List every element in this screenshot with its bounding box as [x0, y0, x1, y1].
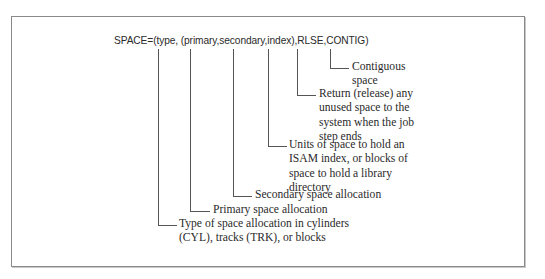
connector-rlse-vertical: [297, 49, 298, 96]
annotation-line: Contiguous: [352, 60, 405, 74]
connector-contig-horizontal: [330, 68, 349, 69]
annotation-secondary: Secondary space allocation: [255, 188, 381, 202]
annotation-line: Units of space to hold an: [289, 138, 408, 152]
annotation-line: unused space to the: [319, 101, 414, 115]
connector-secondary-vertical: [233, 49, 234, 197]
annotation-type: Type of space allocation in cylinders (C…: [179, 217, 349, 246]
annotation-index: Units of space to hold an ISAM index, or…: [289, 138, 408, 195]
annotation-line: Primary space allocation: [213, 203, 328, 217]
annotation-primary: Primary space allocation: [213, 203, 328, 217]
connector-index-vertical: [268, 49, 269, 147]
connector-contig-vertical: [330, 49, 331, 69]
annotation-line: Type of space allocation in cylinders: [179, 217, 349, 231]
connector-index-horizontal: [268, 146, 287, 147]
annotation-line: system when the job: [319, 116, 414, 130]
annotation-line: (CYL), tracks (TRK), or blocks: [179, 231, 349, 245]
connector-type-vertical: [158, 49, 159, 226]
connector-secondary-horizontal: [233, 196, 252, 197]
annotation-line: Return (release) any: [319, 87, 414, 101]
connector-primary-vertical: [190, 49, 191, 212]
annotation-line: ISAM index, or blocks of: [289, 152, 408, 166]
connector-primary-horizontal: [190, 211, 210, 212]
space-syntax: SPACE=(type, (primary,secondary,index),R…: [114, 35, 368, 46]
annotation-line: space to hold a library: [289, 167, 408, 181]
annotation-line: Secondary space allocation: [255, 188, 381, 202]
connector-rlse-horizontal: [297, 95, 316, 96]
annotation-contig: Contiguous space: [352, 60, 405, 89]
connector-type-horizontal: [158, 225, 177, 226]
annotation-rlse: Return (release) any unused space to the…: [319, 87, 414, 144]
